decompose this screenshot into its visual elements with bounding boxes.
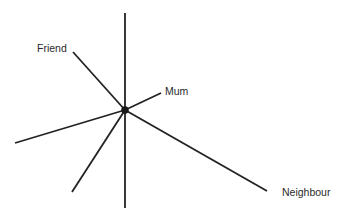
- network-diagram: [0, 0, 344, 217]
- label-mum: Mum: [165, 85, 188, 97]
- ray-unlabeled-left: [15, 110, 125, 143]
- ray-neighbour: [125, 110, 267, 191]
- ray-mum: [125, 93, 161, 110]
- ray-unlabeled-lower: [72, 110, 125, 192]
- center-node: [121, 106, 129, 114]
- label-friend: Friend: [37, 42, 67, 54]
- ray-friend: [73, 52, 125, 110]
- label-neighbour: Neighbour: [282, 186, 330, 198]
